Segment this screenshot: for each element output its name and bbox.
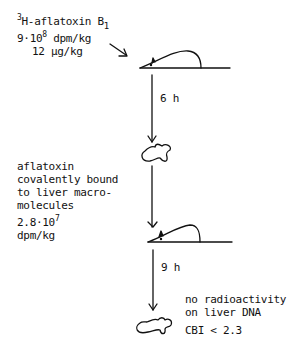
result-line-1: no radioactivity bbox=[185, 293, 286, 306]
dose-activity-unit: dpm/kg bbox=[47, 32, 91, 45]
arrow-down-icon bbox=[149, 250, 157, 310]
bound-line-2: covalently bound bbox=[17, 173, 118, 186]
bound-line-4: molecules bbox=[17, 199, 74, 212]
cbi-value: CBI < 2.3 bbox=[185, 324, 242, 337]
rat-icon bbox=[148, 225, 232, 242]
compound-label: 3H-aflatoxin B1 bbox=[17, 15, 109, 29]
interval-6h: 6 h bbox=[160, 92, 179, 105]
dose-activity-base: 9·10 bbox=[17, 32, 42, 45]
bound-value-exponent: 7 bbox=[55, 214, 60, 223]
isotope-superscript: 3 bbox=[17, 13, 22, 22]
bound-line-1: aflatoxin bbox=[17, 160, 74, 173]
injection-arrow-icon bbox=[110, 44, 127, 56]
dose-mass: 12 µg/kg bbox=[32, 45, 83, 58]
bound-unit: dpm/kg bbox=[17, 229, 55, 242]
dose-activity-exponent: 8 bbox=[42, 30, 47, 39]
dose-activity: 9·108 dpm/kg bbox=[17, 32, 91, 46]
compound-name: H-aflatoxin B bbox=[22, 15, 104, 28]
rat-icon bbox=[140, 51, 230, 68]
arrow-down-icon bbox=[148, 75, 156, 142]
liver-icon bbox=[137, 318, 172, 334]
bound-value-base: 2.8·10 bbox=[17, 216, 55, 229]
arrow-down-icon bbox=[148, 166, 157, 227]
result-line-2: on liver DNA bbox=[185, 306, 261, 319]
liver-icon bbox=[142, 144, 170, 161]
bound-value: 2.8·107 bbox=[17, 216, 59, 230]
compound-subscript: 1 bbox=[104, 21, 109, 31]
interval-9h: 9 h bbox=[161, 261, 180, 274]
bound-line-3: to liver macro- bbox=[17, 186, 112, 199]
